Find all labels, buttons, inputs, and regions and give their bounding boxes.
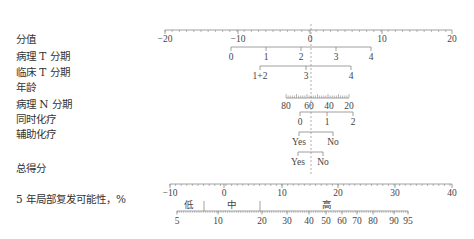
- probability-axis-tick-label: 90: [389, 216, 399, 226]
- probability-axis-tick-label: 95: [403, 216, 413, 226]
- points-axis-tick-label: −20: [158, 34, 173, 44]
- total-points-axis-tick-label: 10: [277, 188, 287, 198]
- probability-axis-tick-label: 20: [257, 216, 267, 226]
- total-points-axis-tick-label: 40: [447, 188, 457, 198]
- probability-axis-tick-label: 80: [368, 216, 378, 226]
- probability-axis-tick-label: 5: [175, 216, 180, 226]
- pathological-t-axis-tick-label: 0: [229, 52, 234, 62]
- concurrent-chemo-axis-tick-label: Yes: [292, 137, 306, 147]
- total-points-axis-tick-label: 20: [333, 188, 343, 198]
- risk-group-label: 高: [322, 199, 332, 210]
- total-points-axis-tick-label: 30: [390, 188, 400, 198]
- pathological-n-axis-tick-label: 0: [298, 117, 303, 127]
- age-axis-tick-label: 60: [304, 101, 314, 111]
- points-axis-tick-label: −10: [231, 34, 246, 44]
- clinical-t-axis-tick-label: 4: [349, 71, 354, 81]
- probability-axis-tick-label: 70: [352, 216, 362, 226]
- pathological-t-axis-tick-label: 3: [334, 52, 339, 62]
- age-axis-tick-label: 20: [344, 101, 354, 111]
- risk-group-label: 低: [184, 199, 194, 210]
- points-axis-tick-label: 0: [308, 34, 313, 44]
- probability-axis-tick-label: 10: [213, 216, 223, 226]
- clinical-t-axis-tick-label: 3: [304, 71, 309, 81]
- points-axis-tick-label: 20: [447, 34, 457, 44]
- pathological-t-axis-tick-label: 2: [299, 52, 304, 62]
- probability-axis-tick-label: 60: [337, 216, 347, 226]
- points-axis-tick-label: 10: [377, 34, 387, 44]
- pathological-t-axis-tick-label: 4: [369, 52, 374, 62]
- nomogram-plot: −20−1001020012341+23480604020012YesNoYes…: [0, 0, 474, 239]
- total-points-axis-tick-label: −10: [163, 188, 178, 198]
- age-axis-tick-label: 80: [281, 101, 291, 111]
- adjuvant-chemo-axis-tick-label: Yes: [291, 157, 305, 167]
- pathological-n-axis-tick-label: 2: [351, 117, 356, 127]
- concurrent-chemo-axis-tick-label: No: [327, 137, 339, 147]
- age-axis-tick-label: 40: [324, 101, 334, 111]
- adjuvant-chemo-axis-tick-label: No: [317, 157, 329, 167]
- clinical-t-axis-tick-label: 1+2: [253, 71, 268, 81]
- total-points-axis-tick-label: 0: [222, 188, 227, 198]
- probability-axis-tick-label: 30: [282, 216, 292, 226]
- pathological-n-axis-tick-label: 1: [325, 117, 330, 127]
- pathological-t-axis-tick-label: 1: [264, 52, 269, 62]
- probability-axis-tick-label: 40: [304, 216, 314, 226]
- risk-group-label: 中: [227, 199, 237, 210]
- probability-axis-tick-label: 50: [321, 216, 331, 226]
